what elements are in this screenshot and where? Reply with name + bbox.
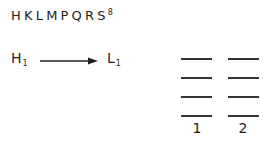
right-arrow-icon xyxy=(40,57,98,65)
from-subscript: 1 xyxy=(23,59,28,68)
title-superscript: 8 xyxy=(108,8,113,17)
level-line xyxy=(181,58,212,60)
to-subscript: 1 xyxy=(116,59,121,68)
level-line xyxy=(181,77,212,79)
from-term: H1 xyxy=(11,50,28,68)
level-line xyxy=(228,77,259,79)
column-label-2: 2 xyxy=(233,120,253,136)
column-label-1: 1 xyxy=(187,120,207,136)
level-line xyxy=(181,96,212,98)
level-line xyxy=(228,58,259,60)
level-line xyxy=(181,115,212,117)
level-line xyxy=(228,96,259,98)
from-symbol: H xyxy=(11,50,22,66)
to-symbol: L xyxy=(107,50,115,66)
title-text: HKLMPQRS xyxy=(11,8,109,23)
title: HKLMPQRS8 xyxy=(11,8,113,23)
level-line xyxy=(228,115,259,117)
to-term: L1 xyxy=(107,50,121,68)
